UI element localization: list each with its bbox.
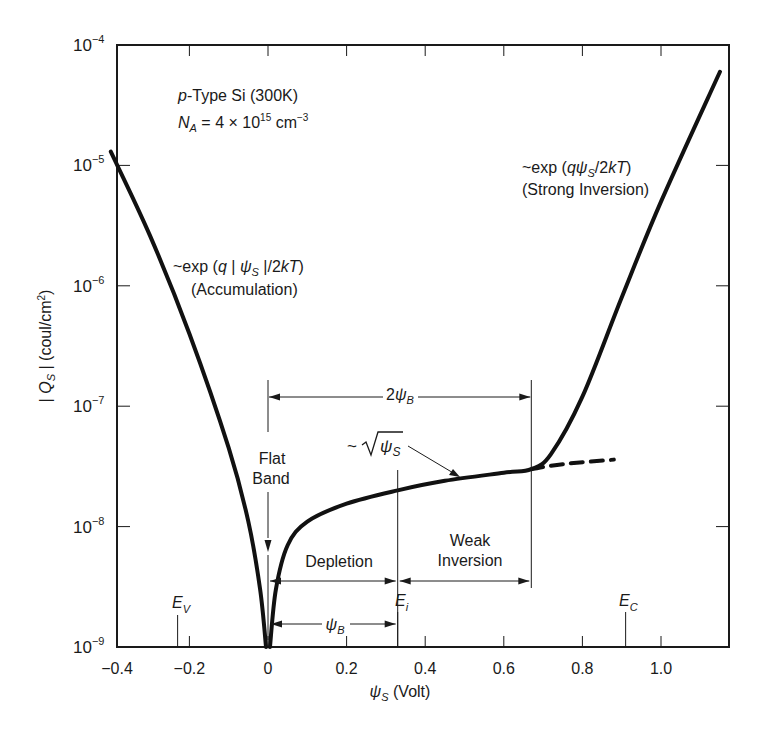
- y-tick-label: 10−4: [73, 33, 104, 55]
- charge-curves: [111, 72, 720, 647]
- accumulation-formula: ~exp (q | ψS |/2kT): [173, 258, 304, 278]
- y-axis-label: | QS | (coul/cm2): [36, 290, 57, 403]
- svg-text:~: ~: [347, 437, 357, 456]
- x-tick-label: 0.8: [571, 660, 593, 677]
- accumulation-label: (Accumulation): [191, 281, 298, 298]
- surface-charge-chart: −0.4−0.200.20.40.60.81.0 10−410−510−610−…: [0, 0, 763, 729]
- doping-label: NA = 4 × 1015 cm−3: [178, 112, 309, 134]
- two-psi-b-label: 2ψB: [386, 386, 414, 406]
- ei-label: Ei: [395, 592, 409, 613]
- y-tick-label: 10−5: [73, 153, 104, 175]
- weak-inversion-label-2: Inversion: [438, 552, 503, 569]
- x-tick-label: 0.2: [335, 660, 357, 677]
- material-label: p-Type Si (300K): [177, 87, 298, 104]
- x-tick-label: 1.0: [650, 660, 672, 677]
- x-axis-label: ψS (Volt): [370, 683, 431, 703]
- sqrt-annotation: ~ ψS: [347, 432, 460, 477]
- svg-text:ψS: ψS: [380, 437, 400, 459]
- x-tick-label: 0: [264, 660, 273, 677]
- ec-label: EC: [619, 592, 638, 613]
- y-tick-label: 10−8: [73, 515, 104, 537]
- x-tick-label: 0.6: [493, 660, 515, 677]
- flat-band-label-2: Band: [252, 470, 289, 487]
- charge-curve: [111, 152, 266, 647]
- weak-inversion-label-1: Weak: [450, 532, 492, 549]
- y-axis-ticks: 10−410−510−610−710−810−9: [73, 33, 729, 657]
- x-tick-label: −0.4: [101, 660, 133, 677]
- plot-frame: [117, 45, 729, 647]
- flat-band-label-1: Flat: [259, 450, 286, 467]
- psi-b-label: ψB: [326, 616, 345, 636]
- strong-inversion-formula: ~exp (qψS/2kT): [522, 159, 631, 179]
- depletion-label: Depletion: [305, 553, 373, 570]
- x-tick-label: 0.4: [414, 660, 436, 677]
- x-tick-label: −0.2: [174, 660, 206, 677]
- ev-label: EV: [172, 594, 192, 615]
- y-tick-label: 10−7: [73, 394, 104, 416]
- strong-inversion-label: (Strong Inversion): [522, 181, 649, 198]
- y-tick-label: 10−6: [73, 274, 104, 296]
- y-tick-label: 10−9: [73, 635, 104, 657]
